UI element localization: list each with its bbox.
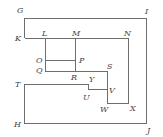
- label-v: V: [109, 86, 116, 95]
- label-i: I: [144, 7, 149, 16]
- label-k: K: [14, 34, 22, 43]
- segment-t-y-v: [25, 85, 108, 90]
- label-q: Q: [36, 66, 43, 75]
- label-u: U: [83, 93, 90, 102]
- label-n: N: [123, 29, 132, 38]
- label-h: H: [13, 120, 22, 129]
- label-m: M: [71, 29, 81, 38]
- label-w: W: [100, 105, 109, 114]
- label-t: T: [15, 80, 21, 89]
- diagram: G I K L M N O P Q R S T Y U V W X H J: [0, 0, 163, 137]
- label-p: P: [78, 56, 85, 65]
- label-y: Y: [89, 75, 95, 84]
- label-r: R: [70, 73, 77, 82]
- label-x: X: [129, 104, 136, 113]
- label-s: S: [107, 62, 113, 71]
- label-g: G: [17, 6, 24, 15]
- label-j: J: [145, 126, 151, 135]
- label-o: O: [36, 56, 43, 65]
- label-l: L: [41, 29, 47, 38]
